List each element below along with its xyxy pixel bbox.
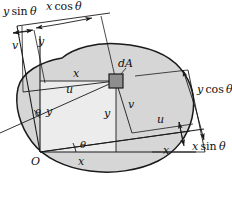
label-coord-x-lower: x bbox=[78, 156, 84, 167]
label-v-axis: v bbox=[12, 40, 18, 51]
label-coord-u-right: u bbox=[157, 114, 164, 125]
label-x-cos-theta: x cos θ bbox=[46, 1, 82, 12]
label-x-axis: x bbox=[163, 145, 169, 156]
label-coord-y-left: y bbox=[46, 106, 52, 117]
label-y-sin-theta: y sin θ bbox=[3, 6, 37, 17]
label-coord-x-upper: x bbox=[73, 68, 79, 79]
y-cos-arrow-bottom bbox=[196, 110, 204, 140]
label-angle-upper: θ bbox=[35, 108, 41, 118]
figure-canvas: y sin θ x cos θ y cos θ x sin θ v y dA x… bbox=[0, 0, 232, 197]
label-coord-v-middle: v bbox=[128, 99, 134, 110]
label-angle-lower: θ bbox=[80, 140, 86, 150]
x-cos-arrow-left bbox=[36, 24, 60, 28]
label-coord-u-upper: u bbox=[66, 84, 73, 95]
area-element-square bbox=[109, 74, 123, 88]
label-y-cos-theta: y cos θ bbox=[197, 84, 232, 95]
label-origin: O bbox=[31, 156, 40, 167]
label-coord-y-middle: y bbox=[104, 108, 110, 119]
label-y-axis: y bbox=[38, 36, 44, 47]
label-dA: dA bbox=[118, 58, 133, 69]
label-x-sin-theta: x sin θ bbox=[192, 141, 226, 152]
